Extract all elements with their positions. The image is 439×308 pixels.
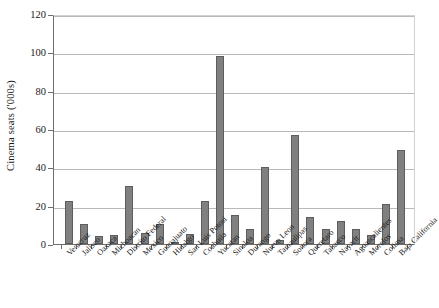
bar (65, 201, 73, 244)
y-axis-tick-label: 80 (2, 87, 46, 97)
y-axis-tick-label-wrap: 120 (0, 10, 46, 20)
y-axis-tick-label: 20 (2, 202, 46, 212)
y-axis-tick-label: 100 (2, 48, 46, 58)
y-axis-tick-label-wrap: 80 (0, 87, 46, 97)
y-axis-tick-label-wrap: 40 (0, 163, 46, 173)
bar (397, 150, 405, 244)
x-axis-tick (61, 245, 62, 249)
y-axis-tick (48, 245, 53, 246)
y-axis-tick-label: 120 (2, 10, 46, 20)
y-axis-tick-label-wrap: 0 (0, 240, 46, 250)
y-axis-tick-label: 60 (2, 125, 46, 135)
y-axis-tick-label-wrap: 100 (0, 48, 46, 58)
y-axis-tick-label-wrap: 60 (0, 125, 46, 135)
bars-layer (54, 16, 414, 244)
plot-area (53, 15, 415, 245)
y-axis-tick-label-wrap: 20 (0, 202, 46, 212)
y-axis-tick-label: 0 (2, 240, 46, 250)
y-axis-tick-label: 40 (2, 163, 46, 173)
